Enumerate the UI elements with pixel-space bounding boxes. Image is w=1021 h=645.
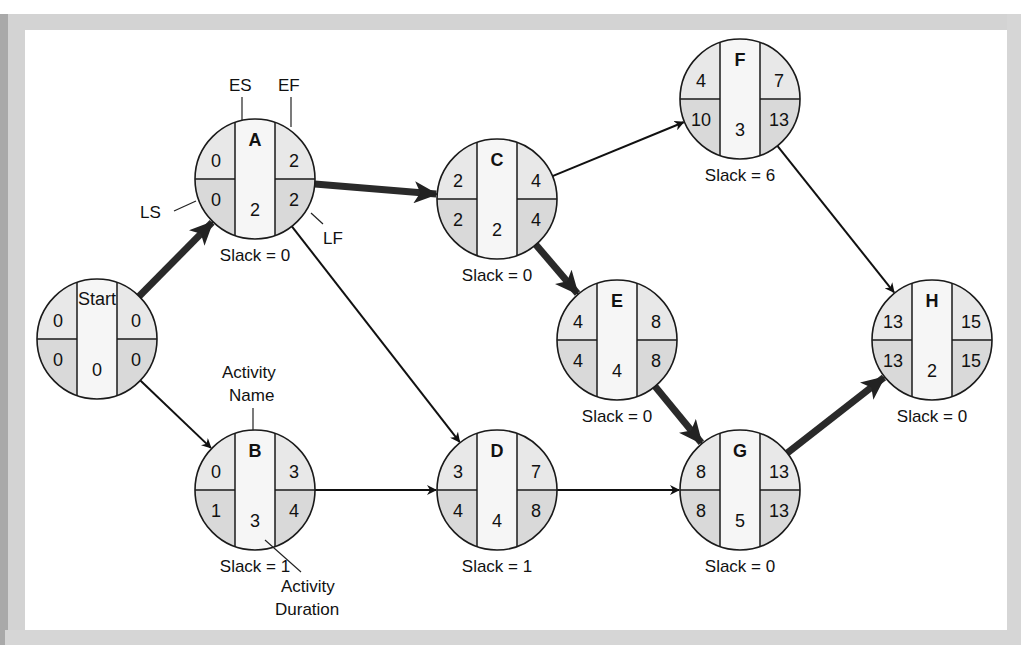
node-name: E xyxy=(611,291,623,311)
node-lf-value: 4 xyxy=(531,210,541,230)
node-name: D xyxy=(491,441,504,461)
node-duration-value: 3 xyxy=(250,511,260,531)
node-name: H xyxy=(926,291,939,311)
node-lf-value: 13 xyxy=(769,110,789,130)
node-e: E48484Slack = 0 xyxy=(557,280,677,426)
node-es-value: 13 xyxy=(883,312,903,332)
legend-activity-name-line1: Activity xyxy=(222,363,276,382)
node-es-value: 0 xyxy=(53,311,63,331)
node-ef-value: 15 xyxy=(961,312,981,332)
node-ls-value: 13 xyxy=(883,351,903,371)
node-h: H131513152Slack = 0 xyxy=(872,280,992,426)
edge-c-to-e xyxy=(536,245,578,294)
node-ef-value: 8 xyxy=(651,312,661,332)
node-duration-value: 4 xyxy=(612,361,622,381)
edge-c-to-f xyxy=(552,122,683,176)
node-d: D37484Slack = 1 xyxy=(437,430,557,576)
node-es-value: 0 xyxy=(211,151,221,171)
node-start: Start00000 xyxy=(37,279,157,399)
node-lf-value: 15 xyxy=(961,351,981,371)
node-ef-value: 13 xyxy=(769,462,789,482)
edge-f-to-h xyxy=(777,146,894,292)
node-ls-value: 0 xyxy=(211,190,221,210)
node-es-value: 4 xyxy=(573,312,583,332)
node-slack-label: Slack = 6 xyxy=(705,166,775,185)
edge-a-to-d xyxy=(292,226,460,442)
node-es-value: 2 xyxy=(453,171,463,191)
node-name: F xyxy=(735,50,746,70)
node-duration-value: 0 xyxy=(92,360,102,380)
node-a: A02022Slack = 0 xyxy=(195,119,315,265)
node-ef-value: 0 xyxy=(131,311,141,331)
edge-g-to-h xyxy=(787,378,884,454)
edge-start-to-b xyxy=(140,380,211,447)
nodes-layer: Start00000A02022Slack = 0B03143Slack = 1… xyxy=(37,39,992,576)
node-slack-label: Slack = 0 xyxy=(462,266,532,285)
node-b: B03143Slack = 1 xyxy=(195,430,315,576)
node-ef-value: 7 xyxy=(774,71,784,91)
node-ef-value: 2 xyxy=(289,151,299,171)
node-name: G xyxy=(733,441,747,461)
network-diagram: Start00000A02022Slack = 0B03143Slack = 1… xyxy=(0,0,1021,645)
node-f: F4710133Slack = 6 xyxy=(680,39,800,185)
node-duration-value: 3 xyxy=(735,120,745,140)
node-lf-value: 4 xyxy=(289,501,299,521)
node-ls-value: 4 xyxy=(453,501,463,521)
node-slack-label: Slack = 1 xyxy=(462,557,532,576)
node-ls-value: 10 xyxy=(691,110,711,130)
node-duration-value: 2 xyxy=(927,361,937,381)
node-name: C xyxy=(491,150,504,170)
node-duration-value: 4 xyxy=(492,511,502,531)
node-ls-value: 0 xyxy=(53,350,63,370)
edge-a-to-c xyxy=(315,184,436,194)
node-lf-value: 8 xyxy=(531,501,541,521)
node-es-value: 3 xyxy=(453,462,463,482)
node-ls-value: 8 xyxy=(696,501,706,521)
node-g: G8138135Slack = 0 xyxy=(680,430,800,576)
legend-activity-duration-line2: Duration xyxy=(275,600,339,619)
legend-activity-name-line2: Name xyxy=(229,386,274,405)
node-es-value: 0 xyxy=(211,462,221,482)
node-name: A xyxy=(249,130,262,150)
node-lf-value: 2 xyxy=(289,190,299,210)
legend-es-label: ES xyxy=(229,76,252,95)
node-ls-value: 4 xyxy=(573,351,583,371)
node-ef-value: 4 xyxy=(531,171,541,191)
node-slack-label: Slack = 0 xyxy=(705,557,775,576)
legend-ls-label: LS xyxy=(140,203,161,222)
node-duration-value: 2 xyxy=(250,200,260,220)
node-duration-value: 5 xyxy=(735,511,745,531)
legend-lf-label: LF xyxy=(323,229,343,248)
node-ef-value: 7 xyxy=(531,462,541,482)
node-ls-value: 2 xyxy=(453,210,463,230)
legend-activity-duration-line1: Activity xyxy=(281,577,335,596)
node-duration-value: 2 xyxy=(492,220,502,240)
node-name: B xyxy=(249,441,262,461)
legend-ef-label: EF xyxy=(278,76,300,95)
node-ef-value: 3 xyxy=(289,462,299,482)
edge-start-to-a xyxy=(139,222,212,296)
node-slack-label: Slack = 0 xyxy=(220,246,290,265)
node-lf-value: 8 xyxy=(651,351,661,371)
node-slack-label: Slack = 0 xyxy=(582,407,652,426)
node-lf-value: 13 xyxy=(769,501,789,521)
node-lf-value: 0 xyxy=(131,350,141,370)
node-ls-value: 1 xyxy=(211,501,221,521)
node-c: C24242Slack = 0 xyxy=(437,139,557,285)
node-es-value: 8 xyxy=(696,462,706,482)
edge-e-to-g xyxy=(655,386,701,442)
node-es-value: 4 xyxy=(696,71,706,91)
node-slack-label: Slack = 0 xyxy=(897,407,967,426)
node-slack-label: Slack = 1 xyxy=(220,557,290,576)
node-name: Start xyxy=(78,289,116,309)
